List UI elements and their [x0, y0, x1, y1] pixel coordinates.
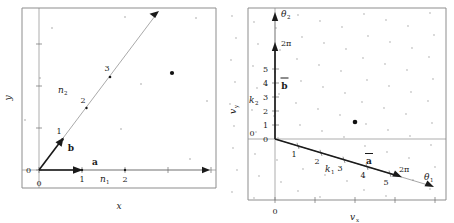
svg-text:a: a [366, 156, 372, 166]
theta2-arrowhead [272, 12, 278, 21]
k1-axis-name: k 1 [325, 164, 335, 175]
twopi-y-label: 2π [281, 39, 291, 48]
right-vx-origin-label: 0 [272, 207, 277, 216]
right-plot-frame [248, 8, 446, 200]
right-vx-axis-label: v x [350, 212, 360, 223]
svg-text:2: 2 [287, 14, 291, 20]
k2-tick-2: 2 [263, 107, 268, 116]
reciprocal-lattice-panel: 1 2 3 4 5 1 2 3 4 5 0 0 0 2π 2π b a k 2 [0, 0, 454, 223]
right-highlighted-lattice-point [353, 120, 358, 125]
svg-text:v: v [228, 109, 238, 114]
twopi-x-label: 2π [399, 165, 409, 174]
k1-tick-3: 3 [337, 164, 342, 173]
theta1-axis-name: θ 1 [424, 172, 434, 183]
k2-tick-1: 1 [263, 121, 268, 130]
vector-a-bar-label: a [365, 154, 373, 167]
svg-text:v: v [350, 212, 355, 222]
k2-tick-3: 3 [263, 93, 268, 102]
k1-tick-1: 1 [291, 150, 296, 159]
svg-text:k: k [325, 164, 330, 174]
k1-tick-4: 4 [360, 171, 365, 180]
theta2-axis-name: θ 2 [281, 9, 291, 20]
k2-axis-name: k 2 [249, 95, 259, 106]
right-vy-axis-label: v y [228, 104, 240, 114]
svg-text:x: x [356, 217, 360, 223]
svg-text:b: b [281, 81, 287, 91]
svg-text:y: y [233, 104, 240, 109]
figure-container: 0 0 1 2 1 2 3 a b n 1 n 2 x y [0, 0, 454, 223]
vector-b-bar-label: b [281, 78, 289, 91]
svg-text:k: k [249, 95, 254, 105]
vector-b-bar-arrowhead [272, 42, 278, 51]
k1-tick-5: 5 [383, 178, 388, 187]
k2-tick-4: 4 [263, 79, 268, 88]
svg-text:1: 1 [331, 169, 335, 175]
right-axis-zero-label: 0 [249, 129, 254, 138]
k2-tick-5: 5 [263, 65, 268, 74]
svg-text:1: 1 [430, 177, 434, 183]
right-vy-origin-label: 0 [263, 135, 268, 144]
k1-tick-2: 2 [314, 157, 319, 166]
svg-text:2: 2 [255, 100, 259, 106]
